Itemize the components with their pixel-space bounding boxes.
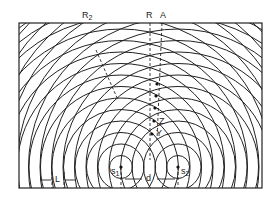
label-d: d xyxy=(146,174,151,183)
wavefront-s2-6 xyxy=(109,98,247,196)
wavefront-s1-6 xyxy=(52,98,190,196)
frame-border xyxy=(19,23,262,188)
wavefronts xyxy=(0,0,274,196)
source-s2-dot xyxy=(176,165,179,168)
dimension-arrows xyxy=(40,179,175,180)
label-L: L xyxy=(55,175,60,184)
label-Y: Y xyxy=(156,129,162,138)
label-Z: Z xyxy=(159,117,165,126)
label-s2: s2 xyxy=(181,167,189,177)
source-s1-dot xyxy=(119,165,122,168)
wavefront-s2-10 xyxy=(63,52,274,196)
wavefront-s2-9 xyxy=(75,64,275,197)
label-A: A xyxy=(160,11,166,20)
label-R2: R2 xyxy=(82,11,92,21)
label-R: R xyxy=(146,11,153,20)
interference-diagram xyxy=(0,0,274,196)
reference-lines xyxy=(52,23,178,188)
antinodal-points xyxy=(119,82,179,168)
label-s1: s1 xyxy=(111,167,119,177)
